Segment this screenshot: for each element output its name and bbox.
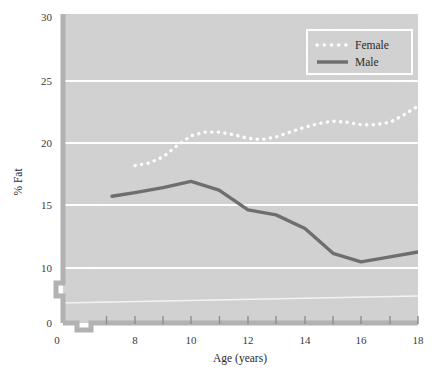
- x-tick-label-12: 12: [243, 334, 254, 346]
- x-tick-label-16: 16: [356, 334, 368, 346]
- x-tick-label-14: 14: [300, 334, 312, 346]
- x-tick-label-18: 18: [413, 334, 425, 346]
- y-tick-label-20: 20: [41, 137, 53, 149]
- y-tick-label-15: 15: [41, 199, 53, 211]
- x-tick-label-10: 10: [186, 334, 198, 346]
- legend-label-male: Male: [355, 56, 379, 68]
- x-tick-label-8: 8: [132, 334, 138, 346]
- y-tick-label-10: 10: [41, 262, 53, 274]
- y-tick-label-30: 30: [41, 11, 53, 23]
- chart-container: Female Male 30 25 20 15 10 0 0 8 10 12 1…: [0, 0, 439, 373]
- y-tick-label-0: 0: [47, 317, 53, 329]
- legend-label-female: Female: [355, 39, 389, 51]
- y-tick-label-25: 25: [41, 75, 53, 87]
- y-axis-title: % Fat: [12, 168, 24, 196]
- fat-vs-age-line-chart: Female Male 30 25 20 15 10 0 0 8 10 12 1…: [0, 0, 439, 373]
- x-tick-label-0: 0: [54, 334, 60, 346]
- x-axis-title: Age (years): [213, 352, 267, 365]
